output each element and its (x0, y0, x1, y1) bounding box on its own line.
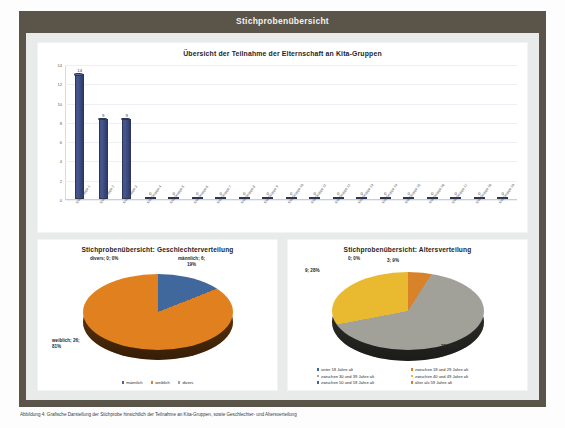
gender-pie-graphic (83, 274, 233, 350)
gender-pie-top (83, 274, 233, 350)
x-axis-label: Kita-Gruppe 11 (303, 202, 327, 232)
x-axis-label: Kita-Gruppe 19 (491, 202, 515, 232)
gender-legend-item[interactable]: weiblich (151, 380, 170, 385)
y-axis-tick-label: 10 (57, 101, 62, 106)
figure-caption: Abbildung 4: Grafische Darstellung der S… (20, 412, 545, 426)
x-axis-label: Kita-Gruppe 16 (421, 202, 445, 232)
gender-pie-stage: divers; 0; 0% männlich; 6; 19% weiblich;… (38, 256, 277, 362)
legend-label: zwischen 50 und 59 Jahre alt (321, 380, 374, 385)
x-axis-label: Kita-Gruppe 7 (209, 202, 233, 232)
x-axis-label: Kita-Gruppe 17 (444, 202, 468, 232)
age-label-18-29: 3; 9% (387, 258, 399, 264)
gender-label-maennlich-line2: 19% (178, 262, 205, 268)
bar-group: 0 (350, 65, 374, 199)
gender-pie-panel: Stichprobenübersicht: Geschlechtervertei… (37, 239, 278, 391)
age-legend-item[interactable]: zwischen 50 und 59 Jahre alt (317, 380, 405, 385)
slide-content-area: Übersicht der Teilnahme der Elternschaft… (26, 33, 539, 400)
x-axis-label: Kita-Gruppe 3 (115, 202, 139, 232)
y-axis-tick-label: 0 (60, 198, 62, 203)
bar (99, 119, 108, 199)
gender-label-divers: divers; 0; 0% (90, 256, 118, 262)
y-axis-tick-label: 12 (57, 82, 62, 87)
bar-group: 0 (233, 65, 257, 199)
x-axis-labels: Kita-Gruppe 1Kita-Gruppe 2Kita-Gruppe 3K… (68, 202, 520, 232)
bar-group: 0 (186, 65, 210, 199)
age-legend-item[interactable]: zwischen 40 und 49 Jahre alt (411, 374, 499, 379)
legend-label: zwischen 18 und 29 Jahre alt (415, 367, 468, 372)
bar-group: 0 (491, 65, 515, 199)
legend-label: divers (182, 380, 193, 385)
age-pie-legend: unter 18 Jahre altzwischen 18 und 29 Jah… (288, 367, 527, 385)
legend-label: zwischen 40 und 49 Jahre alt (415, 374, 468, 379)
x-axis-label: Kita-Gruppe 13 (350, 202, 374, 232)
gender-label-weiblich-line2: 81% (52, 344, 80, 350)
gender-legend-item[interactable]: männlich (122, 380, 143, 385)
age-legend-item[interactable]: unter 18 Jahre alt (317, 367, 405, 372)
age-legend-item[interactable]: älter als 59 Jahre alt (411, 380, 499, 385)
legend-swatch-icon (411, 375, 414, 378)
gender-label-maennlich: männlich; 6; 19% (178, 256, 205, 268)
x-axis-label: Kita-Gruppe 1 (68, 202, 92, 232)
bar-group: 9 (92, 65, 116, 199)
bar (122, 119, 131, 199)
age-label-30-39: 20; 63% (441, 344, 458, 350)
y-axis-tick-label: 6 (60, 140, 62, 145)
legend-label: älter als 59 Jahre alt (415, 380, 452, 385)
bar-group: 0 (280, 65, 304, 199)
y-axis-tick-label: 14 (57, 63, 62, 68)
age-legend-item[interactable]: zwischen 30 und 39 Jahre alt (317, 374, 405, 379)
bar-chart-title: Übersicht der Teilnahme der Elternschaft… (38, 43, 527, 57)
gender-legend-item[interactable]: divers (178, 380, 194, 385)
x-axis-label: Kita-Gruppe 8 (233, 202, 257, 232)
legend-swatch-icon (317, 375, 320, 378)
legend-label: weiblich (155, 380, 170, 385)
bar-group: 0 (303, 65, 327, 199)
age-pie-title: Stichprobenübersicht: Altersverteilung (288, 240, 527, 253)
age-pie-graphic (332, 272, 484, 350)
bar-group: 0 (209, 65, 233, 199)
legend-swatch-icon (411, 381, 414, 384)
bar-group: 0 (374, 65, 398, 199)
legend-swatch-icon (317, 368, 320, 371)
bar-group: 9 (115, 65, 139, 199)
bar-series: 14990000000000000000 (68, 65, 515, 199)
legend-swatch-icon (178, 381, 181, 384)
legend-label: zwischen 30 und 39 Jahre alt (321, 374, 374, 379)
bar-group: 0 (468, 65, 492, 199)
legend-label: männlich (126, 380, 142, 385)
x-axis-label: Kita-Gruppe 15 (397, 202, 421, 232)
y-axis-tick-label: 2 (60, 178, 62, 183)
bar-group: 0 (256, 65, 280, 199)
bar-group: 0 (397, 65, 421, 199)
bar-chart-panel: Übersicht der Teilnahme der Elternschaft… (37, 42, 528, 233)
age-label-40-49: 9; 28% (305, 268, 320, 274)
age-pie-top (332, 272, 484, 350)
slide-title: Stichprobenübersicht (19, 11, 546, 32)
screenshot-root: Stichprobenübersicht Übersicht der Teiln… (0, 0, 565, 428)
gender-pie-title: Stichprobenübersicht: Geschlechtervertei… (38, 240, 277, 253)
legend-swatch-icon (122, 381, 125, 384)
x-axis-label: Kita-Gruppe 6 (186, 202, 210, 232)
age-pie-panel: Stichprobenübersicht: Altersverteilung 0… (287, 239, 528, 391)
bar-group: 0 (327, 65, 351, 199)
legend-swatch-icon (411, 368, 414, 371)
x-axis-label: Kita-Gruppe 4 (139, 202, 163, 232)
x-axis-label: Kita-Gruppe 12 (327, 202, 351, 232)
age-legend-item[interactable]: zwischen 18 und 29 Jahre alt (411, 367, 499, 372)
y-axis-tick-label: 8 (60, 120, 62, 125)
x-axis-label: Kita-Gruppe 5 (162, 202, 186, 232)
y-axis-tick-label: 4 (60, 159, 62, 164)
bar-group: 0 (444, 65, 468, 199)
bar-chart-plot-area: 02468101214 14990000000000000000 (65, 65, 517, 200)
bar-group: 0 (162, 65, 186, 199)
bar-group: 14 (68, 65, 92, 199)
gender-label-weiblich: weiblich; 26; 81% (52, 338, 80, 350)
x-axis-label: Kita-Gruppe 9 (256, 202, 280, 232)
bar-group: 0 (421, 65, 445, 199)
legend-label: unter 18 Jahre alt (321, 367, 353, 372)
x-axis-label: Kita-Gruppe 18 (468, 202, 492, 232)
x-axis-label: Kita-Gruppe 2 (92, 202, 116, 232)
bar-group: 0 (139, 65, 163, 199)
age-pie-stage: 0; 0% 3; 9% 9; 28% 20; 63% (288, 256, 527, 362)
age-label-unter18: 0; 0% (348, 256, 360, 262)
